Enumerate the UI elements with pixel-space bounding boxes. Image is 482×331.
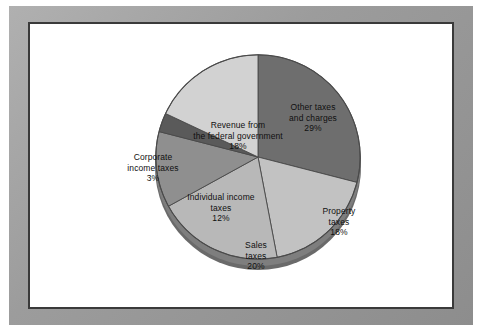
slice-label-line: Sales: [226, 240, 286, 251]
slice-label-line: the federal government: [180, 131, 296, 142]
slice-value: 18%: [180, 141, 296, 152]
slice-label-line: Other taxes: [273, 102, 353, 113]
slice-label-line: Individual income: [173, 192, 269, 203]
slice-label-sales-taxes: Sales taxes 20%: [226, 240, 286, 272]
screenshot-root: Other taxes and charges 29% Property tax…: [0, 0, 482, 331]
slice-label-property-taxes: Property taxes 18%: [303, 206, 375, 238]
picture-frame-border: Other taxes and charges 29% Property tax…: [9, 6, 473, 325]
chart-canvas: Other taxes and charges 29% Property tax…: [30, 24, 452, 307]
slice-label-line: taxes: [173, 203, 269, 214]
slice-value: 3%: [114, 173, 192, 184]
slice-label-individual-income-taxes: Individual income taxes 12%: [173, 192, 269, 224]
slice-value: 20%: [226, 261, 286, 272]
slice-value: 12%: [173, 213, 269, 224]
slice-label-line: Revenue from: [180, 120, 296, 131]
pie-chart: Other taxes and charges 29% Property tax…: [30, 24, 452, 307]
slice-label-line: taxes: [226, 251, 286, 262]
slice-label-line: taxes: [303, 217, 375, 228]
slice-label-line: Corporate: [114, 152, 192, 163]
slice-label-line: income taxes: [114, 163, 192, 174]
slice-label-line: Property: [303, 206, 375, 217]
slice-label-federal-revenue: Revenue from the federal government 18%: [180, 120, 296, 152]
slice-label-corporate-income-taxes: Corporate income taxes 3%: [114, 152, 192, 184]
slice-value: 18%: [303, 227, 375, 238]
